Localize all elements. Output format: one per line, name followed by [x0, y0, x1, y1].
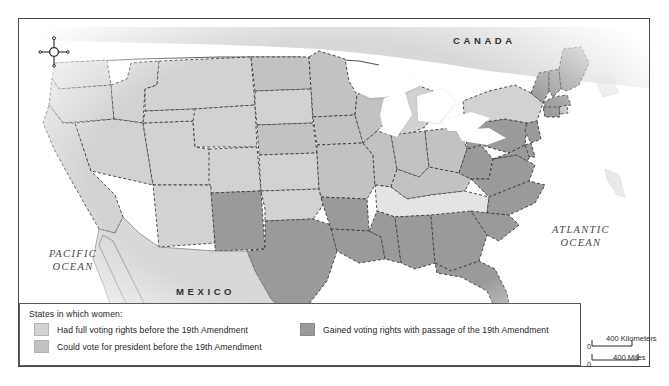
- legend-swatch-full-rights: [34, 323, 49, 336]
- scale-zero-km: 0: [587, 342, 591, 351]
- scale-km-label: 400 Kilometers: [606, 334, 657, 343]
- map-scale-bar: 0 400 Kilometers 0 400 Miles: [586, 320, 666, 375]
- legend-swatch-gained-1920: [300, 323, 315, 336]
- legend-label-gained-1920: Gained voting rights with passage of the…: [323, 325, 549, 335]
- legend-title: States in which women:: [29, 309, 572, 319]
- legend-label-full-rights: Had full voting rights before the 19th A…: [57, 325, 248, 335]
- north-arrow-icon: [37, 35, 71, 69]
- legend-item-president-only[interactable]: Could vote for president before the 19th…: [34, 340, 304, 353]
- legend-item-gained-1920[interactable]: Gained voting rights with passage of the…: [300, 323, 590, 336]
- map-figure: CANADA MEXICO ATLANTIC OCEAN PACIFIC OCE…: [0, 0, 669, 386]
- legend-column-right: Gained voting rights with passage of the…: [300, 323, 590, 340]
- legend-item-full-rights[interactable]: Had full voting rights before the 19th A…: [34, 323, 304, 336]
- scale-bar-graphic: [586, 320, 666, 375]
- legend-column-left: Had full voting rights before the 19th A…: [34, 323, 304, 357]
- legend-items: Had full voting rights before the 19th A…: [28, 323, 572, 363]
- map-legend: States in which women: Had full voting r…: [19, 303, 581, 366]
- legend-swatch-president-only: [34, 340, 49, 353]
- legend-label-president-only: Could vote for president before the 19th…: [57, 342, 262, 352]
- scale-mi-label: 400 Miles: [613, 353, 646, 362]
- scale-zero-mi: 0: [587, 360, 591, 369]
